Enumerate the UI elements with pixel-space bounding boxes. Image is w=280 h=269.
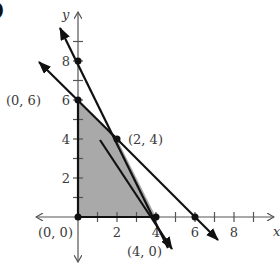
x-tick-label-2: 2 <box>113 225 121 240</box>
point-4-0 <box>153 214 160 221</box>
label-point-0-0: (0, 0) <box>38 225 73 240</box>
point-0-0 <box>75 214 82 221</box>
point-0-6 <box>75 97 82 104</box>
x-axis-label: x <box>273 224 280 239</box>
y-axis-label: y <box>61 7 70 22</box>
label-point-2-4: (2, 4) <box>128 132 163 147</box>
point-2-4 <box>114 136 121 143</box>
feasible-region-graph: ) 2 4 6 8 2 4 6 8 x y <box>0 0 280 269</box>
point-6-0 <box>192 214 199 221</box>
label-point-4-0: (4, 0) <box>127 244 162 259</box>
x-tick-label-6: 6 <box>191 225 199 240</box>
y-tick-label-8: 8 <box>62 54 70 69</box>
corner-label-fragment: ) <box>0 0 5 20</box>
point-0-8 <box>75 58 82 65</box>
y-tick-label-4: 4 <box>62 132 70 147</box>
x-tick-label-8: 8 <box>230 225 238 240</box>
y-tick-label-6: 6 <box>62 93 70 108</box>
y-tick-label-2: 2 <box>62 171 70 186</box>
label-point-0-6: (0, 6) <box>6 93 41 108</box>
